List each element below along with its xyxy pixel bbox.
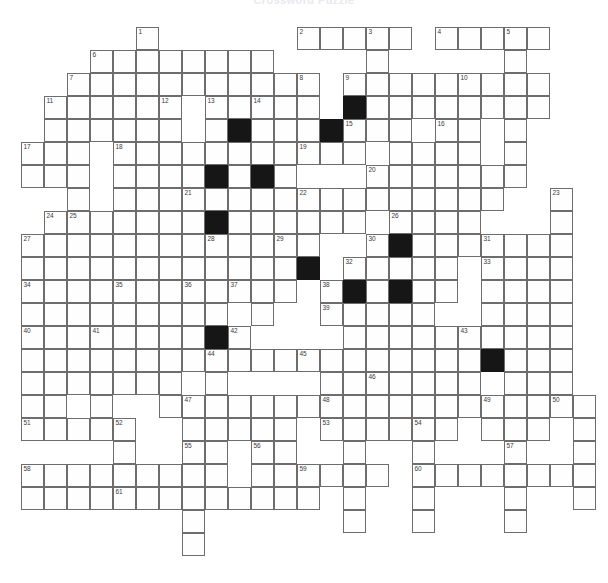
grid-cell[interactable]: [343, 418, 366, 441]
grid-cell[interactable]: [67, 303, 90, 326]
grid-cell[interactable]: [297, 234, 320, 257]
grid-cell[interactable]: 43: [458, 326, 481, 349]
grid-cell[interactable]: [159, 188, 182, 211]
grid-cell[interactable]: 28: [205, 234, 228, 257]
grid-cell[interactable]: [458, 395, 481, 418]
grid-cell[interactable]: [182, 418, 205, 441]
grid-cell[interactable]: [504, 395, 527, 418]
grid-cell[interactable]: 22: [297, 188, 320, 211]
grid-cell[interactable]: [320, 27, 343, 50]
grid-cell[interactable]: 14: [251, 96, 274, 119]
grid-cell[interactable]: [481, 464, 504, 487]
grid-cell[interactable]: [504, 234, 527, 257]
grid-cell[interactable]: [274, 464, 297, 487]
grid-cell[interactable]: [251, 119, 274, 142]
grid-cell[interactable]: [21, 303, 44, 326]
grid-cell[interactable]: [504, 510, 527, 533]
grid-cell[interactable]: [297, 395, 320, 418]
grid-cell[interactable]: [136, 487, 159, 510]
grid-cell[interactable]: [44, 349, 67, 372]
grid-cell[interactable]: [412, 257, 435, 280]
grid-cell[interactable]: 38: [320, 280, 343, 303]
grid-cell[interactable]: [366, 280, 389, 303]
grid-cell[interactable]: [458, 119, 481, 142]
grid-cell[interactable]: [366, 395, 389, 418]
grid-cell[interactable]: [389, 165, 412, 188]
grid-cell[interactable]: [228, 418, 251, 441]
grid-cell[interactable]: [366, 464, 389, 487]
grid-cell[interactable]: 23: [550, 188, 573, 211]
grid-cell[interactable]: [136, 326, 159, 349]
grid-cell[interactable]: [412, 142, 435, 165]
grid-cell[interactable]: [21, 257, 44, 280]
grid-cell[interactable]: [136, 96, 159, 119]
grid-cell[interactable]: [205, 395, 228, 418]
grid-cell[interactable]: [458, 27, 481, 50]
grid-cell[interactable]: [205, 50, 228, 73]
grid-cell[interactable]: [458, 349, 481, 372]
grid-cell[interactable]: [90, 257, 113, 280]
grid-cell[interactable]: [159, 50, 182, 73]
grid-cell[interactable]: [90, 349, 113, 372]
grid-cell[interactable]: [343, 211, 366, 234]
grid-cell[interactable]: 21: [182, 188, 205, 211]
grid-cell[interactable]: [228, 395, 251, 418]
grid-cell[interactable]: [343, 372, 366, 395]
grid-cell[interactable]: [251, 349, 274, 372]
grid-cell[interactable]: [113, 303, 136, 326]
grid-cell[interactable]: [366, 50, 389, 73]
grid-cell[interactable]: [113, 73, 136, 96]
grid-cell[interactable]: [343, 395, 366, 418]
grid-cell[interactable]: [274, 96, 297, 119]
grid-cell[interactable]: [44, 464, 67, 487]
grid-cell[interactable]: [251, 280, 274, 303]
grid-cell[interactable]: [136, 165, 159, 188]
grid-cell[interactable]: [113, 165, 136, 188]
grid-cell[interactable]: 6: [90, 50, 113, 73]
grid-cell[interactable]: [366, 349, 389, 372]
grid-cell[interactable]: [182, 165, 205, 188]
grid-cell[interactable]: 48: [320, 395, 343, 418]
grid-cell[interactable]: [136, 464, 159, 487]
grid-cell[interactable]: [228, 165, 251, 188]
grid-cell[interactable]: [274, 119, 297, 142]
grid-cell[interactable]: [389, 349, 412, 372]
grid-cell[interactable]: [389, 303, 412, 326]
grid-cell[interactable]: [412, 441, 435, 464]
grid-cell[interactable]: [228, 487, 251, 510]
grid-cell[interactable]: [504, 303, 527, 326]
grid-cell[interactable]: [412, 96, 435, 119]
grid-cell[interactable]: [251, 142, 274, 165]
grid-cell[interactable]: 19: [297, 142, 320, 165]
grid-cell[interactable]: [274, 73, 297, 96]
grid-cell[interactable]: [251, 234, 274, 257]
grid-cell[interactable]: [251, 211, 274, 234]
grid-cell[interactable]: [205, 119, 228, 142]
grid-cell[interactable]: [159, 165, 182, 188]
grid-cell[interactable]: 8: [297, 73, 320, 96]
grid-cell[interactable]: [159, 372, 182, 395]
grid-cell[interactable]: [412, 211, 435, 234]
grid-cell[interactable]: [573, 487, 596, 510]
grid-cell[interactable]: [481, 165, 504, 188]
grid-cell[interactable]: [182, 303, 205, 326]
grid-cell[interactable]: [67, 234, 90, 257]
grid-cell[interactable]: [527, 326, 550, 349]
grid-cell[interactable]: [113, 372, 136, 395]
grid-cell[interactable]: [435, 257, 458, 280]
grid-cell[interactable]: [573, 395, 596, 418]
grid-cell[interactable]: 30: [366, 234, 389, 257]
grid-cell[interactable]: [44, 326, 67, 349]
grid-cell[interactable]: [228, 257, 251, 280]
grid-cell[interactable]: [136, 280, 159, 303]
grid-cell[interactable]: 33: [481, 257, 504, 280]
grid-cell[interactable]: [412, 395, 435, 418]
grid-cell[interactable]: [389, 418, 412, 441]
grid-cell[interactable]: [274, 188, 297, 211]
grid-cell[interactable]: [550, 234, 573, 257]
grid-cell[interactable]: [550, 326, 573, 349]
grid-cell[interactable]: 37: [228, 280, 251, 303]
grid-cell[interactable]: [251, 257, 274, 280]
grid-cell[interactable]: [67, 257, 90, 280]
grid-cell[interactable]: [343, 464, 366, 487]
